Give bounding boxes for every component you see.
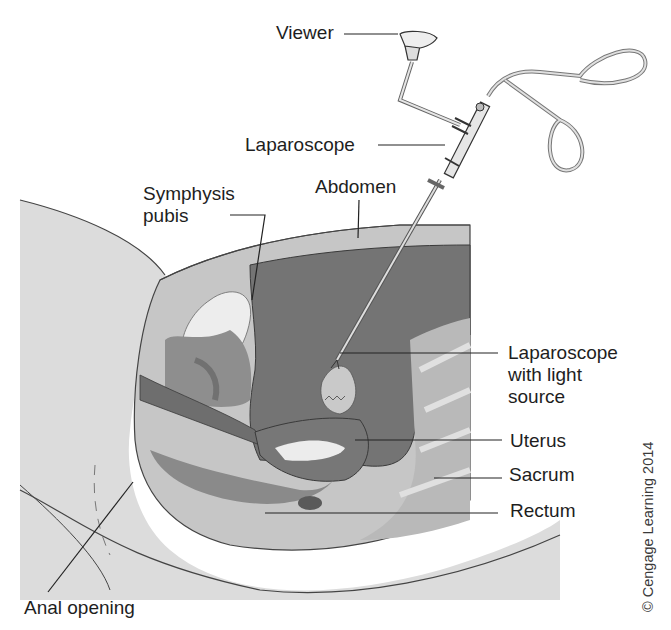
copyright-notice: © Cengage Learning 2014: [640, 442, 656, 612]
label-laparoscope-light-source: Laparoscope with light source: [508, 342, 618, 408]
label-sacrum: Sacrum: [509, 464, 574, 486]
label-rectum: Rectum: [510, 500, 575, 522]
label-uterus: Uterus: [510, 430, 566, 452]
label-anal-opening: Anal opening: [24, 597, 135, 619]
label-viewer: Viewer: [276, 22, 334, 44]
label-symphysis-pubis: Symphysis pubis: [143, 183, 235, 227]
label-laparoscope: Laparoscope: [245, 134, 355, 156]
label-abdomen: Abdomen: [315, 176, 396, 198]
laparoscopy-diagram: [0, 0, 671, 630]
